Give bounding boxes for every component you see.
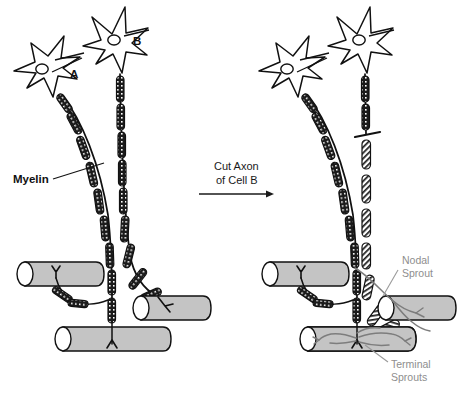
terminal-sprouts-label-line-1: Terminal [391,358,431,370]
nodal-sprout-label-line-2: Sprout [402,267,433,279]
muscle-fiber-2-after [378,296,456,320]
axon-sprouting-diagram: A B [0,0,463,399]
arrow-label-line-1: Cut Axon [214,160,259,172]
cell-a-label: A [70,68,78,80]
myelin-label: Myelin [13,173,49,185]
arrow-label-line-2: of Cell B [216,174,258,186]
muscle-fiber-3 [55,327,171,351]
terminal-sprouts-label-line-2: Sprouts [391,371,427,383]
nodal-sprout-label-line-1: Nodal [402,254,429,266]
figure-root: A B [0,0,463,399]
muscle-fiber-2 [133,296,211,320]
cell-b-label: B [133,35,141,47]
